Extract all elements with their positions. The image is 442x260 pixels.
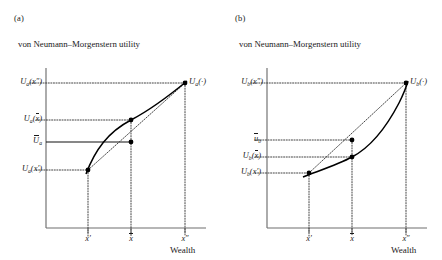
panel-a-xaxis-name: Wealth <box>170 245 195 255</box>
point-u-a-x-prime <box>86 168 91 173</box>
panel-a-plot <box>0 0 221 260</box>
panel-b-xtick-x-prime: x′ <box>297 234 321 243</box>
panel-b-svg <box>221 0 442 260</box>
figure-two-panel-utility: (a) von Neumann–Morgenstern utility <box>0 0 442 260</box>
point-u-bar-a-on-chord <box>129 140 134 145</box>
panel-a-x-ticks <box>88 228 185 233</box>
panel-b-chord <box>309 83 406 173</box>
point-u-b-x-double-prime <box>404 81 409 86</box>
point-u-b-x-bar <box>350 155 355 160</box>
panel-b-vertical-guides <box>309 83 406 236</box>
point-u-a-x-double-prime <box>183 81 188 86</box>
panel-b-ylabel-u-b-x-bar: Ub(x) <box>221 151 261 160</box>
point-u-b-x-prime <box>307 171 312 176</box>
panel-b-x-ticks <box>309 228 406 233</box>
panel-b-xtick-x-double-prime: x″ <box>394 234 418 243</box>
panel-a-horizontal-guides <box>30 83 185 170</box>
panel-b-ylabel-u-b-x-prime: Ub(x′) <box>221 167 261 176</box>
panel-b-ylabel-u-bar-b: ub <box>221 134 261 143</box>
panel-a-chord <box>88 83 185 170</box>
panel-b-utility-curve <box>303 81 408 177</box>
point-u-bar-b-on-chord <box>350 138 355 143</box>
panel-a-ylabel-u-a-x-double-prime: Ua(x″) <box>0 77 42 86</box>
panel-a-xtick-x-bar: x <box>119 234 143 243</box>
panel-b-curve-label: Ub(·) <box>410 76 427 86</box>
panel-a-ylabel-u-a-x-bar: Ua(x) <box>0 114 42 123</box>
panel-a-vertical-guides <box>88 83 185 236</box>
panel-a: (a) von Neumann–Morgenstern utility <box>0 0 221 260</box>
panel-a-ylabel-u-a-x-prime: Ua(x′) <box>0 164 42 173</box>
panel-b: (b) von Neumann–Morgenstern utility <box>221 0 442 260</box>
panel-a-xtick-x-double-prime: x″ <box>173 234 197 243</box>
point-u-a-x-bar <box>129 118 134 123</box>
panel-a-axes <box>46 68 206 228</box>
panel-b-ylabel-u-b-x-double-prime: Ub(x″) <box>221 77 263 86</box>
panel-b-axes <box>267 68 427 228</box>
panel-b-xaxis-name: Wealth <box>391 245 416 255</box>
panel-a-ylabel-u-bar-a: Ua <box>0 136 42 145</box>
panel-a-xtick-x-prime: x′ <box>76 234 100 243</box>
panel-a-curve-label: Ua(·) <box>189 76 206 86</box>
panel-b-xtick-x-bar: x <box>340 234 364 243</box>
panel-a-svg <box>0 0 221 260</box>
panel-b-plot <box>221 0 442 260</box>
